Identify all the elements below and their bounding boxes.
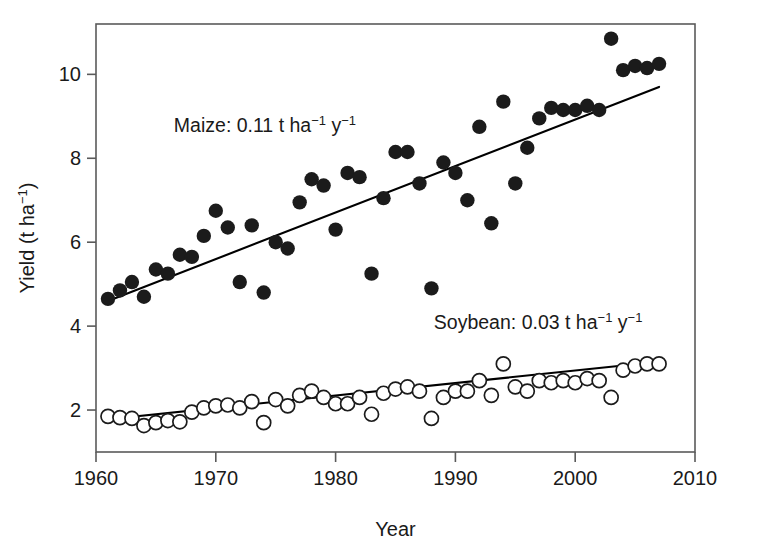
data-point-maize [364, 266, 378, 280]
data-point-maize [185, 250, 199, 264]
data-point-soybean [412, 384, 426, 398]
data-point-maize [400, 145, 414, 159]
x-tick-label-1990: 1990 [433, 467, 478, 489]
data-point-maize [448, 166, 462, 180]
data-point-maize [592, 103, 606, 117]
data-point-soybean [257, 416, 271, 430]
scatter-plot: 246810196019701980199020002010YearYield … [0, 0, 769, 549]
data-point-maize [460, 193, 474, 207]
data-point-maize [532, 111, 546, 125]
data-point-maize [125, 275, 139, 289]
soybean-annotation: Soybean: 0.03 t ha−1 y−1 [434, 310, 643, 334]
data-point-maize [544, 101, 558, 115]
x-tick-label-1970: 1970 [194, 467, 239, 489]
data-point-maize [472, 120, 486, 134]
data-point-soybean [245, 395, 259, 409]
data-point-maize [197, 229, 211, 243]
data-point-maize [316, 178, 330, 192]
data-point-maize [328, 222, 342, 236]
maize-annotation: Maize: 0.11 t ha−1 y−1 [174, 113, 356, 137]
data-point-maize [173, 248, 187, 262]
data-point-soybean [520, 384, 534, 398]
data-point-maize [137, 290, 151, 304]
data-point-soybean [365, 407, 379, 421]
data-point-maize [424, 281, 438, 295]
data-point-maize [209, 204, 223, 218]
data-point-soybean [173, 415, 187, 429]
data-point-maize [412, 176, 426, 190]
data-point-maize [245, 218, 259, 232]
data-point-maize [101, 292, 115, 306]
data-point-maize [280, 241, 294, 255]
data-point-soybean [484, 388, 498, 402]
data-point-soybean [353, 390, 367, 404]
data-point-maize [652, 57, 666, 71]
data-point-soybean [460, 384, 474, 398]
data-point-soybean [496, 357, 510, 371]
data-point-maize [352, 170, 366, 184]
y-axis-title: Yield (t ha−1) [15, 183, 39, 294]
data-point-soybean [472, 374, 486, 388]
data-point-maize [292, 195, 306, 209]
x-tick-label-1960: 1960 [74, 467, 119, 489]
data-point-maize [436, 155, 450, 169]
x-tick-label-2010: 2010 [673, 467, 718, 489]
figure-container: 246810196019701980199020002010YearYield … [0, 0, 769, 549]
x-axis-title: Year [375, 518, 416, 540]
data-point-maize [484, 216, 498, 230]
data-point-maize [604, 31, 618, 45]
data-point-maize [233, 275, 247, 289]
data-point-maize [257, 285, 271, 299]
y-tick-label-4: 4 [70, 315, 81, 337]
data-point-maize [113, 283, 127, 297]
data-point-soybean [592, 374, 606, 388]
x-tick-label-1980: 1980 [313, 467, 358, 489]
x-tick-label-2000: 2000 [553, 467, 598, 489]
data-point-soybean [281, 399, 295, 413]
y-tick-label-6: 6 [70, 231, 81, 253]
data-point-soybean [604, 390, 618, 404]
data-point-soybean [652, 357, 666, 371]
y-tick-label-2: 2 [70, 399, 81, 421]
data-point-maize [161, 266, 175, 280]
data-point-soybean [424, 411, 438, 425]
data-point-maize [376, 191, 390, 205]
data-point-maize [496, 94, 510, 108]
y-tick-label-8: 8 [70, 147, 81, 169]
data-point-maize [221, 220, 235, 234]
data-point-maize [508, 176, 522, 190]
y-tick-label-10: 10 [59, 63, 81, 85]
data-point-maize [520, 141, 534, 155]
data-point-maize [628, 59, 642, 73]
